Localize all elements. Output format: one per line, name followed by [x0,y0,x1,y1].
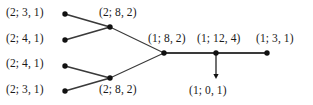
label-node-3: (2; 4, 1) [6,58,44,70]
graph-node-n7[interactable] [161,50,166,55]
label-node-4: (2; 3, 1) [6,84,44,96]
label-node-8: (1; 12, 4) [197,33,240,45]
label-node-9: (1; 3, 1) [256,33,294,45]
graph-node-n9[interactable] [264,50,269,55]
label-node-7: (1; 8, 2) [148,33,186,45]
arrow-layer [213,53,218,79]
diagram-canvas: (2; 3, 1)(2; 4, 1)(2; 4, 1)(2; 3, 1)(2; … [0,0,313,105]
graph-node-n4[interactable] [62,88,67,93]
graph-node-n3[interactable] [62,63,67,68]
label-node-1: (2; 3, 1) [6,7,44,19]
graph-node-n2[interactable] [62,37,67,42]
label-node-5: (2; 8, 2) [99,7,137,19]
label-node-6: (2; 8, 2) [99,84,137,96]
graph-edge [65,66,110,78]
diagram-graphics [0,0,313,105]
graph-node-n1[interactable] [62,11,67,16]
arrow-head-icon [213,74,218,79]
label-node-2: (2; 4, 1) [6,33,44,45]
graph-node-n6[interactable] [107,75,112,80]
graph-node-n5[interactable] [107,24,112,29]
graph-edge [110,53,164,78]
graph-node-n8[interactable] [213,50,218,55]
label-arrow-sink: (1; 0, 1) [189,85,227,97]
graph-edge [65,27,110,40]
